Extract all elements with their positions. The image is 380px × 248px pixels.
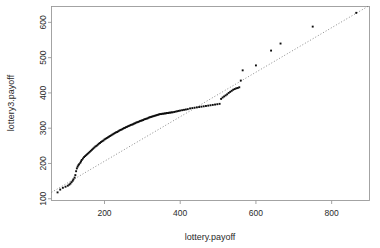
data-point [238, 86, 240, 88]
data-point [255, 64, 257, 66]
qq-plot-figure: 200400600800 100200300400500600 lottery.… [0, 0, 380, 248]
data-point [212, 104, 214, 106]
data-point [179, 110, 181, 112]
data-point [214, 104, 216, 106]
y-tick-label: 100 [38, 191, 48, 205]
data-point [185, 109, 187, 111]
x-tick-label: 200 [97, 208, 111, 218]
x-axis-title: lottery.payoff [185, 232, 236, 242]
data-point [65, 186, 67, 188]
data-point [280, 43, 282, 45]
figure-background [0, 0, 380, 248]
data-point [198, 106, 200, 108]
data-point [216, 103, 218, 105]
data-point [75, 170, 77, 172]
y-tick-label: 300 [38, 121, 48, 135]
y-tick-label: 600 [38, 15, 48, 29]
y-tick-label: 400 [38, 86, 48, 100]
x-tick-label: 600 [249, 208, 263, 218]
x-tick-label: 400 [173, 208, 187, 218]
data-point [189, 107, 191, 109]
data-point [200, 106, 202, 108]
data-point [196, 106, 198, 108]
data-point [57, 191, 59, 193]
data-point [62, 187, 64, 189]
data-point [210, 104, 212, 106]
data-point [240, 80, 242, 82]
y-tick-label: 200 [38, 156, 48, 170]
data-point [183, 109, 185, 111]
data-point [187, 108, 189, 110]
data-point [270, 50, 272, 52]
data-point [74, 174, 76, 176]
data-point [312, 26, 314, 28]
data-point [205, 105, 207, 107]
data-point [219, 103, 221, 105]
data-point [355, 12, 357, 14]
data-point [203, 105, 205, 107]
plot-canvas: 200400600800 100200300400500600 lottery.… [0, 0, 380, 248]
data-point [242, 69, 244, 71]
data-point [76, 167, 78, 169]
x-tick-label: 800 [325, 208, 339, 218]
data-point [181, 109, 183, 111]
data-point [74, 177, 76, 179]
data-point [59, 189, 61, 191]
data-point [194, 107, 196, 109]
data-point [207, 105, 209, 107]
data-point [191, 107, 193, 109]
y-axis-title: lottery3.payoff [6, 74, 16, 131]
y-tick-label: 500 [38, 50, 48, 64]
data-point [73, 178, 75, 180]
